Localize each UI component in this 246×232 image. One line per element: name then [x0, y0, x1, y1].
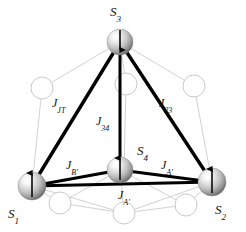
coupling-label-J_Ap-right: JA' — [161, 156, 173, 175]
ligand-upper-left-icon — [31, 77, 53, 99]
coupling-label-J_Bp: JB' — [66, 156, 78, 175]
sphere-S1 — [18, 172, 46, 200]
sphere-S2 — [198, 168, 226, 196]
spin-label-S3: S3 — [110, 3, 121, 22]
ligand-upper-center-icon — [115, 73, 137, 95]
spin-label-S2: S2 — [215, 201, 226, 220]
coupling-label-J_JT: JJT — [52, 94, 65, 113]
sphere-S4 — [107, 157, 133, 183]
coupling-label-J_34: J34 — [96, 112, 109, 131]
sphere-S3 — [107, 29, 133, 55]
coupling-label-J_23-sub: 23 — [164, 106, 172, 115]
spin-label-S3-sub: 3 — [117, 14, 122, 24]
ligand-lower-right-icon — [175, 194, 197, 216]
coupling-label-J_JT-sub: JT — [57, 106, 65, 115]
coupling-label-J_Ap-bottom-sub: A' — [123, 198, 130, 207]
spin-label-S2-sub: 2 — [222, 212, 227, 222]
spin-label-S1-base: S — [8, 206, 15, 221]
spin-label-S2-base: S — [215, 202, 222, 217]
coupling-label-J_23: J23 — [159, 94, 172, 113]
coupling-label-J_Bp-sub: B' — [71, 168, 78, 177]
spin-spheres — [18, 29, 226, 200]
spin-label-S4: S4 — [137, 142, 148, 161]
ligand-lower-left-icon — [49, 192, 71, 214]
spin-label-S4-base: S — [137, 143, 144, 158]
spin-label-S4-sub: 4 — [144, 153, 149, 163]
ligand-upper-right-icon — [183, 75, 205, 97]
spin-label-S3-base: S — [110, 4, 117, 19]
coupling-label-J_Ap-right-sub: A' — [166, 168, 173, 177]
coupling-label-J_34-sub: 34 — [101, 124, 109, 133]
spin-label-S1-sub: 1 — [15, 216, 20, 226]
spin-cluster-figure: S3 S4 S1 S2 JJT J23 J34 JB' JA' JA' — [0, 0, 246, 232]
coupling-label-J_Ap-bottom: JA' — [118, 186, 130, 205]
spin-label-S1: S1 — [8, 205, 19, 224]
